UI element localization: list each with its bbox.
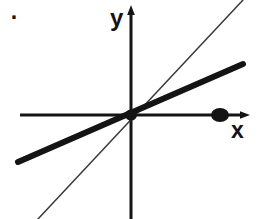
x-axis-point-marker bbox=[211, 108, 229, 122]
origin-point-marker bbox=[125, 110, 137, 121]
x-axis-label: x bbox=[231, 119, 244, 142]
y-axis-arrowhead bbox=[127, 5, 135, 15]
math-figure: l . y x bbox=[0, 0, 263, 219]
y-axis-label: y bbox=[110, 6, 123, 30]
coordinate-plot bbox=[0, 0, 263, 219]
